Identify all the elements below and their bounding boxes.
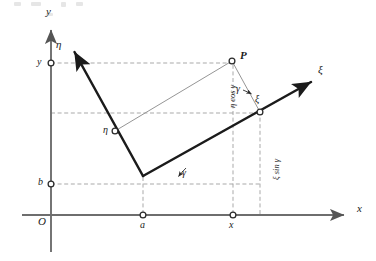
x-axis-label: x xyxy=(357,203,362,214)
marker-a xyxy=(140,212,146,218)
eta-axis-label: η xyxy=(56,39,61,50)
point-label-xi: ξ xyxy=(255,94,259,104)
point-label-b: b xyxy=(38,177,43,187)
auxiliary-parallelogram xyxy=(115,61,260,131)
marker-x xyxy=(230,212,236,218)
y-axis-label: y xyxy=(46,6,51,17)
marker-b xyxy=(48,181,54,187)
gamma-indicators xyxy=(179,90,252,177)
oblique-axes xyxy=(75,52,312,176)
marker-xi xyxy=(257,109,263,115)
point-label-a: a xyxy=(140,220,145,230)
point-label-x: x xyxy=(229,220,233,230)
eta-axis-line xyxy=(75,52,144,176)
origin-label: O xyxy=(38,216,46,227)
figure-canvas: y x ξ η O P y b a x ξ η γ γ η cos γ ξ si… xyxy=(0,0,376,261)
point-markers xyxy=(48,58,263,218)
marker-y xyxy=(48,60,54,66)
xi-axis-label: ξ xyxy=(318,64,323,75)
point-label-y: y xyxy=(37,57,41,67)
segment-label-eta-cos-gamma: η cos γ xyxy=(228,85,237,108)
angle-label-gamma-lower: γ xyxy=(182,168,186,178)
line-eta-to-P xyxy=(115,61,232,131)
point-label-P: P xyxy=(240,50,247,61)
marker-eta xyxy=(112,128,118,134)
segment-label-xi-sin-gamma: ξ sin γ xyxy=(272,159,281,180)
gamma-upper-arc xyxy=(243,90,252,94)
point-label-eta: η xyxy=(103,125,108,135)
marker-P xyxy=(229,58,235,64)
